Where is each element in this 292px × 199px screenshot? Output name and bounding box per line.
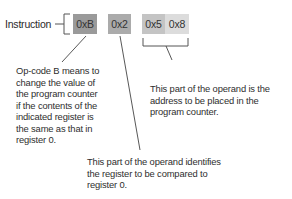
- address-annotation: This part of the operand is the address …: [150, 83, 270, 118]
- address-high-field: 0x5: [142, 14, 165, 34]
- register-field: 0x2: [108, 14, 131, 34]
- register-annotation: This part of the operand identifies the …: [87, 156, 221, 191]
- address-low-field: 0x8: [165, 14, 189, 34]
- opcode-annotation: Op-code B means to change the value of t…: [16, 65, 99, 146]
- opcode-field: 0xB: [73, 14, 97, 34]
- instruction-label: Instruction: [5, 18, 51, 30]
